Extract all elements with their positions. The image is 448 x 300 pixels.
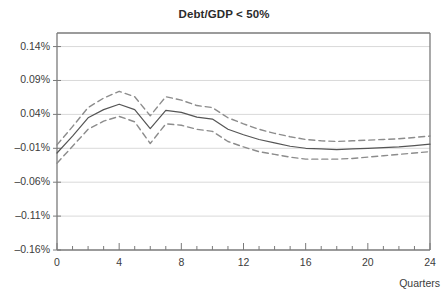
x-tick-label: 12 bbox=[230, 256, 258, 268]
x-tick-label: 24 bbox=[416, 256, 444, 268]
y-tick-label: 0.14% bbox=[4, 40, 50, 52]
x-axis-title: Quarters bbox=[399, 277, 440, 289]
y-tick-label: –0.16% bbox=[4, 243, 50, 255]
x-tick-label: 0 bbox=[43, 256, 71, 268]
y-tick-label: 0.04% bbox=[4, 107, 50, 119]
x-tick-label: 20 bbox=[354, 256, 382, 268]
x-tick-label: 4 bbox=[105, 256, 133, 268]
chart-container: Debt/GDP < 50% 0.14%0.09%0.04%–0.01%–0.0… bbox=[0, 0, 448, 300]
y-tick-label: 0.09% bbox=[4, 73, 50, 85]
x-tick-label: 8 bbox=[167, 256, 195, 268]
x-tick-label: 16 bbox=[292, 256, 320, 268]
plot-area bbox=[0, 0, 448, 300]
y-tick-label: –0.11% bbox=[4, 209, 50, 221]
y-tick-label: –0.01% bbox=[4, 141, 50, 153]
series-point-estimate bbox=[57, 104, 430, 153]
y-tick-label: –0.06% bbox=[4, 175, 50, 187]
